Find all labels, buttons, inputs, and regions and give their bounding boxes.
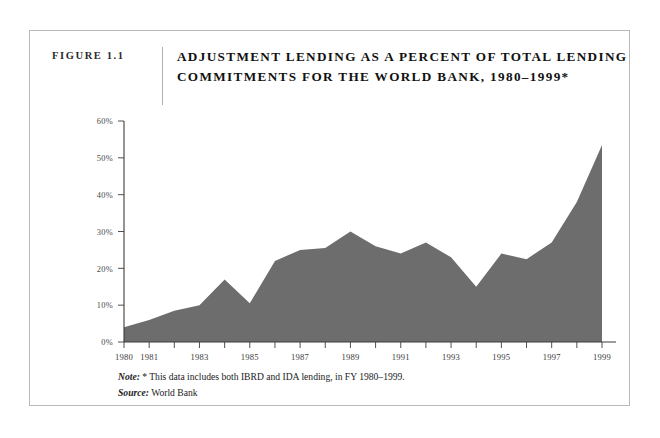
- x-tick-label: 1997: [543, 352, 561, 362]
- figure-footnotes: Note: * This data includes both IBRD and…: [118, 369, 588, 400]
- x-tick-label: 1991: [392, 352, 410, 362]
- x-tick-label: 1993: [442, 352, 460, 362]
- note-label: Note:: [118, 371, 140, 382]
- y-tick-label: 60%: [97, 117, 113, 126]
- note-text: * This data includes both IBRD and IDA l…: [140, 371, 405, 382]
- note-line: Note: * This data includes both IBRD and…: [118, 369, 588, 385]
- y-axis-tick-marks: [118, 121, 124, 342]
- y-tick-label: 30%: [97, 228, 113, 237]
- source-label: Source:: [118, 387, 149, 398]
- area-chart: 0%10%20%30%40%50%60% 1980198119831985198…: [30, 31, 631, 407]
- x-tick-label: 1983: [190, 352, 208, 362]
- x-tick-label: 1995: [492, 352, 510, 362]
- x-tick-label: 1981: [140, 352, 158, 362]
- chart-plot-area: 0%10%20%30%40%50%60% 1980198119831985198…: [30, 31, 631, 407]
- y-tick-label: 50%: [97, 154, 113, 163]
- source-text: World Bank: [149, 387, 198, 398]
- y-axis-tick-labels: 0%10%20%30%40%50%60%: [97, 117, 113, 347]
- y-tick-label: 40%: [97, 191, 113, 200]
- y-tick-label: 20%: [97, 265, 113, 274]
- source-line: Source: World Bank: [118, 385, 588, 401]
- x-tick-label: 1987: [291, 352, 309, 362]
- y-tick-label: 0%: [101, 338, 113, 347]
- x-axis-tick-labels: 1980198119831985198719891991199319951997…: [115, 352, 611, 362]
- x-tick-label: 1999: [593, 352, 611, 362]
- figure-frame: FIGURE 1.1 ADJUSTMENT LENDING AS A PERCE…: [29, 30, 630, 406]
- y-tick-label: 10%: [97, 301, 113, 310]
- x-tick-label: 1980: [115, 352, 133, 362]
- area-series-fill: [124, 145, 602, 342]
- x-tick-label: 1985: [241, 352, 259, 362]
- x-tick-label: 1989: [341, 352, 359, 362]
- x-axis-tick-marks: [124, 342, 602, 348]
